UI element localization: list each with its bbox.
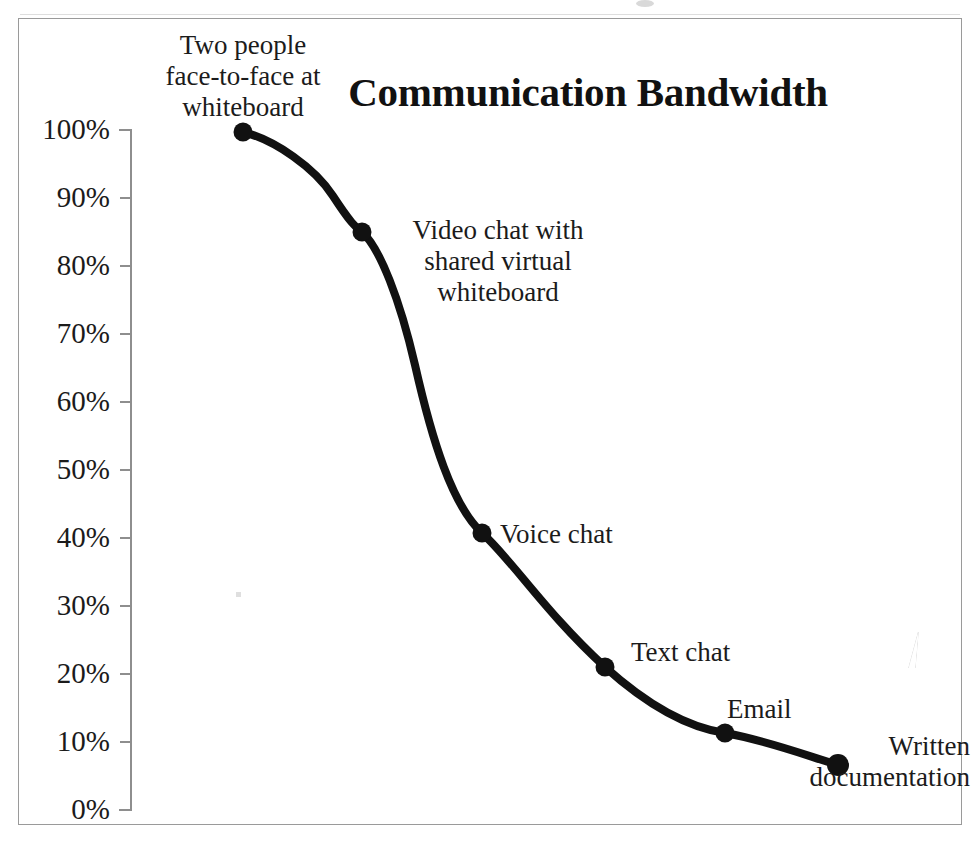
data-point-marker-3 [473, 524, 492, 543]
data-point-marker-5 [716, 724, 735, 743]
data-point-marker-1 [234, 123, 253, 142]
annotation-face-to-face: Two people face-to-face at whiteboard [118, 30, 368, 123]
annotation-email: Email [727, 694, 927, 725]
data-point-marker-4 [596, 658, 615, 677]
data-point-marker-2 [353, 223, 372, 242]
chart-figure: Communication Bandwidth 100% 90% 80% 70%… [0, 0, 980, 843]
annotation-voice-chat: Voice chat [500, 519, 740, 550]
annotation-text-chat: Text chat [631, 637, 871, 668]
annotation-written-documentation: Written documentation [758, 731, 970, 793]
annotation-video-chat: Video chat with shared virtual whiteboar… [383, 215, 613, 308]
